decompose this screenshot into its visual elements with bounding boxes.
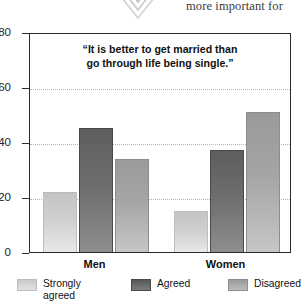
y-axis-tick-label: 40 [0, 136, 11, 148]
legend-label: Agreed [157, 278, 190, 290]
y-axis-tick-label: 20 [0, 191, 11, 203]
y-axis-tick [22, 143, 29, 144]
plot-area: “It is better to get married than go thr… [29, 33, 291, 253]
y-axis-tick [22, 88, 29, 89]
legend-item-strongly-agreed[interactable]: Strongly agreed [17, 278, 105, 301]
y-axis-tick-label: 0 [0, 246, 11, 258]
legend-label: Strongly agreed [43, 278, 105, 301]
bar-women-strongly-agreed [174, 211, 208, 252]
legend-item-agreed[interactable]: Agreed [131, 278, 190, 291]
gridline [30, 89, 290, 90]
legend: Strongly agreedAgreedDisagreed [0, 278, 306, 303]
chart-title-line-2: go through life being single.” [30, 57, 290, 71]
chart-title: “It is better to get married than go thr… [30, 43, 290, 70]
chart-title-line-1: “It is better to get married than [30, 43, 290, 57]
legend-swatch-icon [131, 279, 151, 291]
bar-men-disagreed [115, 159, 149, 253]
y-axis-tick [22, 33, 29, 34]
y-axis-tick [22, 198, 29, 199]
bar-women-disagreed [246, 112, 280, 252]
legend-swatch-icon [17, 279, 37, 291]
bleed-text-fragment: more important for [186, 0, 283, 14]
y-axis-tick-label: 80 [0, 26, 11, 38]
chart-page: more important for 020406080 “It is bett… [0, 0, 306, 303]
legend-label: Disagreed [254, 278, 301, 290]
bar-men-strongly-agreed [43, 192, 77, 253]
bar-women-agreed [210, 150, 244, 252]
chevron-ornament-icon [112, 0, 164, 22]
legend-swatch-icon [228, 279, 248, 291]
y-axis-tick [22, 253, 29, 254]
bar-men-agreed [79, 128, 113, 252]
x-axis-label-women: Women [160, 258, 291, 270]
legend-item-disagreed[interactable]: Disagreed [228, 278, 301, 291]
x-axis-label-men: Men [29, 258, 160, 270]
y-axis-tick-label: 60 [0, 81, 11, 93]
